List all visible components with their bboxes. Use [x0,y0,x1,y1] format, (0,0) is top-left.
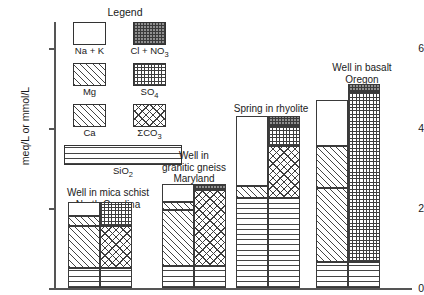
group-label-2-line2: granitic gneiss [162,162,226,173]
bar-2-cations [162,184,194,288]
segment-so4 [348,92,380,262]
segment-ca [236,186,268,198]
group-label-4-line1: Well in basalt [332,62,391,73]
group-label-4-line2: Oregon [345,74,378,85]
bar-3-anions [268,116,300,288]
bar-2-anions [194,184,226,288]
bar-4-anions [348,84,380,288]
bar-1-anions [100,202,132,288]
plot-area: Well in mica schist North Carolina Well … [0,0,424,295]
bar-1-cations [68,202,100,288]
segment-mg [316,146,348,188]
segment-mg [68,216,100,226]
group-label-2-line1: Well in [179,150,209,161]
segment-co3 [194,190,226,266]
segment-ca [162,210,194,266]
bar-3-cations [236,116,268,288]
segment-co3 [100,226,132,268]
segment-so4 [268,126,300,146]
segment-cl-no3 [348,84,380,92]
group-label-1-line1: Well in mica schist [67,187,149,198]
segment-sio2 [194,266,226,288]
group-label-3-line1: Spring in rhyolite [234,103,308,114]
segment-so4 [100,202,132,226]
chart-root: 0 2 4 6 meq/L or mmol/L Legend Na + K Cl… [0,0,424,295]
segment-co3 [268,146,300,198]
segment-sio2 [316,262,348,288]
segment-na-k [316,100,348,146]
segment-sio2 [236,198,268,288]
segment-mg [162,202,194,210]
bar-4-cations [316,100,348,288]
segment-sio2 [68,268,100,288]
group-label-2-line3: Maryland [173,173,214,184]
group-label-4: Well in basalt Oregon [312,62,412,85]
segment-sio2 [268,198,300,288]
group-label-2: Well in granitic gneiss Maryland [148,150,240,185]
segment-na-k [162,184,194,202]
segment-sio2 [100,268,132,288]
segment-ca [68,226,100,268]
segment-sio2 [162,266,194,288]
segment-sio2 [348,262,380,288]
segment-cl-no3 [268,116,300,126]
segment-na-k [68,202,100,216]
segment-ca [316,188,348,262]
segment-na-k [236,116,268,186]
